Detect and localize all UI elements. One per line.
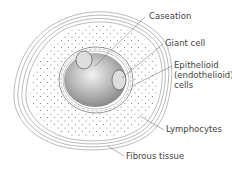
label-epithelioid-2: (endothelioid)	[174, 70, 232, 80]
label-epithelioid-3: cells	[174, 80, 193, 90]
label-epithelioid-1: Epithelioid	[174, 60, 219, 70]
giant-cell-2	[112, 70, 126, 90]
label-fibrous-tissue: Fibrous tissue	[126, 151, 184, 161]
label-lymphocytes: Lymphocytes	[166, 124, 222, 134]
label-caseation: Caseation	[149, 11, 191, 21]
granuloma-diagram	[0, 0, 232, 170]
label-giant-cell: Giant cell	[165, 38, 205, 48]
giant-cell-1	[76, 51, 92, 69]
